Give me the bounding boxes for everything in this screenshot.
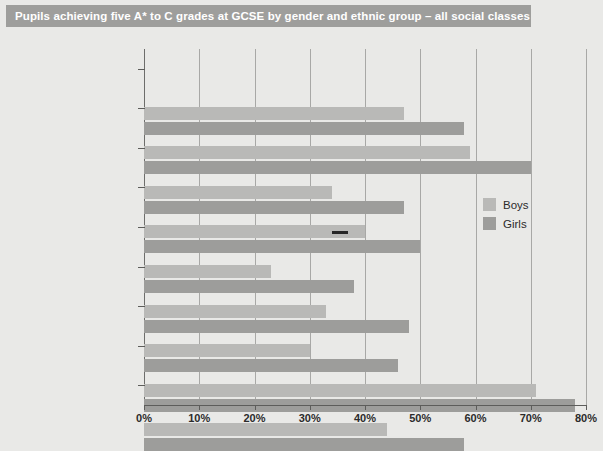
legend-swatch-girls-icon (483, 217, 496, 230)
chart-legend: Boys Girls (483, 196, 545, 234)
y-axis-tick (138, 108, 145, 109)
bar-girls (144, 161, 531, 174)
x-tick-20 (255, 405, 256, 410)
legend-swatch-boys-icon (483, 198, 496, 211)
bar-boys (144, 384, 536, 397)
bar-girls (144, 240, 420, 253)
x-axis-tick-label: 10% (188, 412, 210, 424)
page-title: Pupils achieving five A* to C grades at … (15, 10, 530, 22)
x-axis-tick-label: 70% (520, 412, 542, 424)
x-tick-50 (420, 405, 421, 410)
bar-boys (144, 423, 387, 436)
legend-item-girls: Girls (483, 215, 545, 232)
x-axis-tick-label: 0% (136, 412, 152, 424)
bar-girls (144, 320, 409, 333)
y-axis-tick (138, 346, 145, 347)
x-tick-80 (586, 405, 587, 410)
bar-girls (144, 201, 404, 214)
bar-girls (144, 122, 464, 135)
bar-boys (144, 305, 326, 318)
x-tick-30 (310, 405, 311, 410)
x-axis-tick-label: 30% (299, 412, 321, 424)
gridline-50 (420, 49, 421, 405)
x-tick-70 (531, 405, 532, 410)
legend-item-boys: Boys (483, 196, 545, 213)
y-axis-tick (138, 187, 145, 188)
bar-boys (144, 186, 332, 199)
bar-boys (144, 146, 470, 159)
gridline-40 (365, 49, 366, 405)
y-axis-tick (138, 148, 145, 149)
gridline-80 (586, 49, 587, 405)
x-tick-60 (476, 405, 477, 410)
x-tick-10 (199, 405, 200, 410)
x-axis-tick-label: 20% (243, 412, 265, 424)
legend-label-boys: Boys (503, 199, 529, 211)
y-axis-tick (138, 267, 145, 268)
x-axis-tick-label: 50% (409, 412, 431, 424)
x-tick-0 (144, 405, 145, 410)
bar-boys (144, 344, 310, 357)
y-axis-tick (138, 385, 145, 386)
bar-boys (144, 265, 271, 278)
chart-title-bar: Pupils achieving five A* to C grades at … (6, 5, 531, 27)
y-axis-tick (138, 227, 145, 228)
x-tick-40 (365, 405, 366, 410)
bar-boys (144, 107, 404, 120)
y-axis-tick (138, 306, 145, 307)
legend-label-girls: Girls (503, 218, 527, 230)
bar-girls (144, 280, 354, 293)
annotation-marker-line (332, 231, 349, 234)
x-axis-tick-label: 40% (354, 412, 376, 424)
x-axis-tick-label: 60% (464, 412, 486, 424)
gridline-60 (476, 49, 477, 405)
bar-girls (144, 359, 398, 372)
y-axis-tick (138, 69, 145, 70)
x-axis-tick-label: 80% (575, 412, 597, 424)
bar-girls (144, 438, 464, 451)
